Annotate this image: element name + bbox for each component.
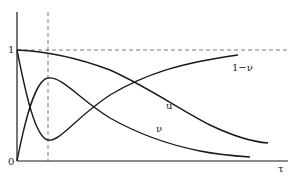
y-tick-one: 1 [8,44,14,55]
curve-v [17,78,250,161]
label-v: ν [156,123,162,134]
y-tick-zero: 0 [8,156,14,167]
label-u: u [166,100,173,111]
chart: 1 0 τ u ν 1−ν [0,0,296,178]
curve-u [17,50,268,143]
x-axis-label: τ [278,163,284,174]
label-one-minus-v: 1−ν [232,62,253,73]
